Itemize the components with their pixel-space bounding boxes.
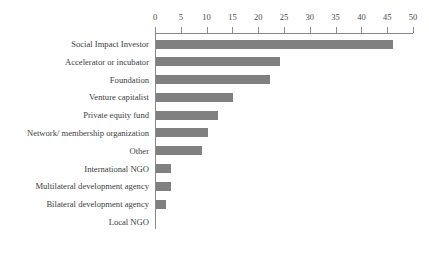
bar-row: Accelerator or incubator	[0, 54, 429, 72]
category-label: Multilateral development agency	[4, 180, 149, 192]
x-tick-label: 35	[331, 12, 340, 22]
bar-row: Other	[0, 143, 429, 161]
bar-row: Foundation	[0, 72, 429, 90]
x-tick	[413, 27, 414, 33]
bar-chart: 05101520253035404550 Social Impact Inves…	[0, 0, 429, 257]
category-label: Venture capitalist	[4, 91, 149, 103]
category-label: Private equity fund	[4, 109, 149, 121]
bar-row: Multilateral development agency	[0, 178, 429, 196]
category-label: Foundation	[4, 74, 149, 86]
x-tick-label: 15	[228, 12, 237, 22]
x-tick-label: 5	[179, 12, 183, 22]
bar	[156, 111, 218, 120]
bar	[156, 40, 393, 49]
x-tick-label: 10	[202, 12, 211, 22]
x-tick-label: 50	[409, 12, 418, 22]
x-tick-label: 0	[153, 12, 157, 22]
bar	[156, 146, 202, 155]
bar-row: Local NGO	[0, 214, 429, 232]
x-tick-label: 45	[383, 12, 392, 22]
category-label: Social Impact Investor	[4, 38, 149, 50]
x-tick-label: 25	[280, 12, 289, 22]
category-label: Bilateral development agency	[4, 198, 149, 210]
x-tick-label: 30	[306, 12, 315, 22]
bar	[156, 164, 171, 173]
bar-row: Bilateral development agency	[0, 196, 429, 214]
bar	[156, 93, 233, 102]
bar	[156, 57, 280, 66]
bar-row: International NGO	[0, 161, 429, 179]
x-tick-label: 40	[357, 12, 366, 22]
bar-row: Venture capitalist	[0, 89, 429, 107]
category-label: Other	[4, 145, 149, 157]
category-label: International NGO	[4, 163, 149, 175]
bar-row: Social Impact Investor	[0, 36, 429, 54]
category-label: Local NGO	[4, 216, 149, 228]
bar-row: Network/ membership organization	[0, 125, 429, 143]
category-label: Accelerator or incubator	[4, 56, 149, 68]
x-axis-ticks: 05101520253035404550	[0, 0, 429, 40]
bar-rows: Social Impact InvestorAccelerator or inc…	[0, 36, 429, 232]
bar	[156, 128, 208, 137]
x-tick-label: 20	[254, 12, 263, 22]
bar	[156, 200, 166, 209]
bar-row: Private equity fund	[0, 107, 429, 125]
bar	[156, 182, 171, 191]
x-axis-line	[155, 33, 413, 34]
bar	[156, 75, 270, 84]
category-label: Network/ membership organization	[4, 127, 149, 139]
